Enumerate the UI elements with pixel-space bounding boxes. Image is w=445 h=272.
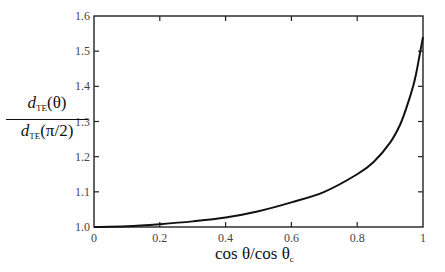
x-tick-label: 0.8 [350,231,365,245]
series-group [94,37,423,227]
x-tick-label: 0.6 [284,231,299,245]
x-tick-label: 0 [91,231,97,245]
x-tick-label: 0.4 [218,231,233,245]
x-tick-label: 0.2 [152,231,167,245]
y-axis-label-denominator: dTE(π/2) [2,121,92,146]
y-tick-label: 1.0 [75,220,90,234]
ticks [94,16,423,227]
y-tick-label: 1.6 [75,9,90,23]
y-tick-label: 1.5 [75,44,90,58]
x-axis-label: cos θ/cos θc [215,244,294,264]
denominator-sub: TE [29,131,40,141]
denominator-arg: (π/2) [40,121,73,140]
y-tick-label: 1.1 [75,185,90,199]
plot-frame [94,16,423,227]
y-tick-label: 1.2 [75,150,90,164]
series-line [94,37,423,227]
fraction-bar [6,119,88,120]
numerator-arg: (θ) [47,93,66,112]
numerator-sub: TE [36,103,47,113]
y-axis-label-numerator: dTE(θ) [2,93,92,118]
plot-area-border [94,16,423,227]
y-tick-label: 1.4 [75,79,90,93]
x-axis-label-subscript: c [290,254,294,264]
x-axis-label-main: cos θ/cos θ [215,244,290,263]
numerator-var: d [28,93,37,112]
denominator-var: d [21,121,30,140]
x-tick-label: 1 [420,231,426,245]
y-axis-label: dTE(θ) dTE(π/2) [2,93,92,146]
x-tick-labels: 00.20.40.60.81 [91,231,426,245]
